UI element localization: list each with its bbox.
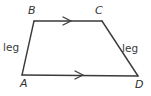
- edge-AB: [22, 21, 34, 75]
- vertex-label-C: C: [95, 5, 103, 16]
- side-label-right-leg: leg: [122, 43, 138, 54]
- geometry-figure: B C A D leg leg: [0, 0, 151, 96]
- vertex-label-A: A: [20, 78, 28, 89]
- vertex-label-B: B: [28, 5, 36, 16]
- side-label-left-leg: leg: [3, 42, 19, 53]
- vertex-label-D: D: [135, 79, 143, 90]
